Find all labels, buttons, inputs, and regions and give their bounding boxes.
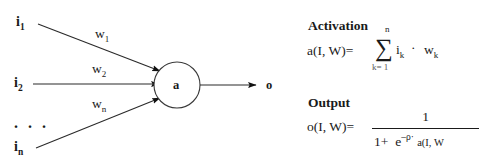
exponent-activation: a(I, W [417,137,444,148]
denominator-one-plus: 1+ [374,134,388,149]
fraction-denominator: 1+ e–ρ· a(I, W [374,133,444,148]
weight-label-2: w2 [92,62,106,79]
sum-upper-limit: n [385,25,390,34]
summation-sign: ∑ [375,35,393,60]
neuron-activation-label: a [173,79,179,92]
input-label-n: in [14,140,23,157]
formula-panel: Activation a(I, W)= n ∑ k= 1 ik · wk Out… [302,0,479,165]
summand-operator: · [411,41,416,55]
output-label: o [266,79,272,92]
sigmoid-fraction: 1 1+ e–ρ· a(I, W [372,110,479,150]
summand-weight: wk [424,43,438,60]
weight-label-n: wn [92,97,106,114]
activation-title: Activation [308,19,368,33]
activation-lhs: a(I, W)= [307,44,353,58]
neuron-diagram-graphics [0,0,300,165]
output-lhs: o(I, W)= [307,120,354,134]
neuron-diagram: i1 i2 . . . in w1 w2 wn a o [0,0,300,165]
figure-canvas: i1 i2 . . . in w1 w2 wn a o Activation a… [0,0,479,165]
fraction-numerator: 1 [372,110,479,124]
input-label-1: i1 [16,15,25,32]
output-title: Output [308,96,350,110]
input-ellipsis: . . . [14,115,49,131]
input-label-2: i2 [14,76,23,93]
summand-input: ik [396,43,404,60]
weight-label-1: w1 [95,27,109,44]
exponent-dot: · [411,132,414,142]
sum-lower-limit: k= 1 [372,63,388,72]
fraction-bar [372,128,479,129]
